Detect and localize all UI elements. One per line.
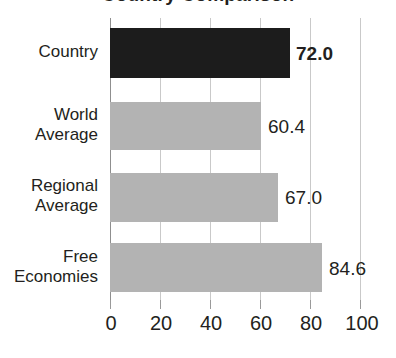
category-label-line: Free (0, 247, 98, 267)
bar-free-economies[interactable] (110, 243, 322, 292)
xtick-label-60: 60 (250, 311, 272, 335)
value-label-world-average: 60.4 (268, 117, 305, 136)
category-label-line: Average (0, 196, 98, 216)
xtick-20 (160, 300, 161, 309)
xtick-40 (210, 300, 211, 309)
category-label-line: World (0, 105, 98, 125)
bar-country[interactable] (110, 28, 290, 78)
xtick-60 (260, 300, 261, 309)
value-label-country: 72.0 (296, 44, 333, 63)
xtick-80 (310, 300, 311, 309)
xtick-label-80: 80 (300, 311, 322, 335)
category-label-line: Economies (0, 267, 98, 287)
xtick-0 (110, 300, 111, 309)
bar-world-average[interactable] (110, 102, 261, 150)
value-label-free-economies: 84.6 (329, 259, 366, 278)
value-label-regional-average: 67.0 (285, 188, 322, 207)
bar-chart: Country Comparison Country World Average (0, 0, 396, 358)
xtick-label-40: 40 (200, 311, 222, 335)
category-label-line: Average (0, 125, 98, 145)
xtick-label-100: 100 (345, 311, 378, 335)
xtick-label-20: 20 (150, 311, 172, 335)
category-axis-labels: Country World Average Regional Average F… (0, 18, 104, 300)
bar-regional-average[interactable] (110, 173, 278, 222)
category-label-free-economies: Free Economies (0, 247, 98, 287)
category-label-regional-average: Regional Average (0, 176, 98, 216)
chart-title-clipped: Country Comparison (0, 0, 396, 6)
xtick-100 (360, 300, 361, 309)
category-label-world-average: World Average (0, 105, 98, 145)
category-label-line: Country (0, 42, 98, 62)
x-axis-tick-labels: 0 20 40 60 80 100 (0, 311, 396, 341)
category-label-line: Regional (0, 176, 98, 196)
category-label-country: Country (0, 42, 98, 62)
xtick-label-0: 0 (105, 311, 116, 335)
